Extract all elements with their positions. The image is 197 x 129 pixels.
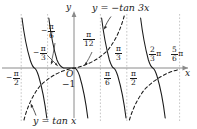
x-tick-pi-6-num: π [104,70,111,78]
x-tick-pi-6: π6 [104,70,111,86]
x-tick-neg-pi-6: −π6 [41,23,55,39]
neg-pi-3-pointer-arrow [55,62,58,66]
x-tick-pi-12: π12 [83,31,95,47]
x-tick-neg-pi-2-sign: − [6,74,12,82]
function-graph-figure: y = −tan 3x y = tan x y x O −1 −π2 −π3 −… [0,0,197,129]
x-tick-two-thirds-pi: 23π [149,46,161,62]
solid-curve-label: y = −tan 3x [92,3,149,13]
x-tick-neg-pi-6-den: 6 [48,31,55,40]
y-axis-label: y [66,3,71,12]
x-tick-neg-pi-3-sign: − [33,49,39,57]
y-axis-arrow [72,11,77,17]
x-tick-five-sixths-pi: 56π [171,46,183,62]
x-tick-pi-3: π3 [115,45,122,61]
x-tick-neg-pi-6-sign: − [41,27,47,35]
x-tick-neg-pi-2: −π2 [6,70,20,86]
x-tick-neg-pi-3-den: 3 [40,53,47,62]
x-tick-pi-3-den: 3 [115,53,122,62]
x-tick-neg-pi-2-den: 2 [13,78,20,87]
y-tick-minus-one-label: −1 [62,80,75,89]
x-tick-pi-2-den: 2 [130,78,137,87]
x-tick-five-sixths-pi-den: 6 [171,54,178,63]
x-tick-neg-pi-3-num: π [40,45,47,53]
x-tick-pi-6-den: 6 [104,78,111,87]
x-tick-pi-3-num: π [115,45,122,53]
x-tick-two-thirds-pi-suffix: π [156,49,161,58]
x-tick-pi-2: π2 [130,70,137,86]
x-tick-neg-pi-3: −π3 [33,45,47,61]
dashed-curve-label-text: y = tan x [33,115,76,126]
pi-12-pointer-arrow [84,62,88,66]
x-tick-neg-pi-6-num: π [48,23,55,31]
graph-canvas [0,0,197,129]
x-tick-pi-12-den: 12 [83,39,95,48]
x-tick-neg-pi-2-num: π [13,70,20,78]
x-tick-pi-12-num: π [83,31,95,39]
solid-curve-label-text: y = −tan 3x [92,2,149,13]
x-tick-two-thirds-pi-num: 2 [149,46,156,54]
x-axis-label: x [185,69,190,78]
x-tick-two-thirds-pi-den: 3 [149,54,156,63]
origin-label: O [66,70,73,79]
x-tick-five-sixths-pi-num: 5 [171,46,178,54]
x-tick-pi-2-num: π [130,70,137,78]
dashed-curve-label: y = tan x [33,116,76,126]
x-tick-five-sixths-pi-suffix: π [178,49,183,58]
